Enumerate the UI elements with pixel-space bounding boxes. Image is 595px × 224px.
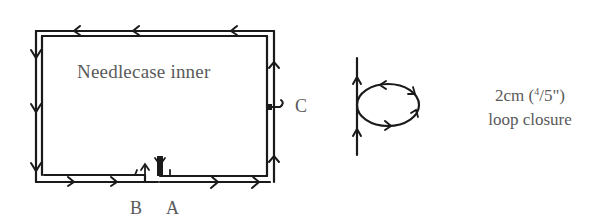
- caption-measurement-main: 2cm (: [495, 86, 534, 105]
- b-start-arrow-icon: [135, 164, 149, 175]
- inner-stitch-line: [42, 36, 267, 182]
- caption-measurement: 2cm (4/5"): [465, 80, 595, 108]
- point-b-label: B: [130, 199, 142, 217]
- a-knot-icon: [155, 156, 170, 176]
- caption-description: loop closure: [465, 108, 595, 132]
- diagram-title: Needlecase inner: [77, 62, 210, 81]
- caption-fraction-rest: /5"): [539, 86, 565, 105]
- point-c-label: C: [295, 97, 307, 115]
- point-a-label: A: [166, 199, 179, 217]
- loop-closure-caption: 2cm (4/5") loop closure: [465, 80, 595, 132]
- loop-closure-diagram: [353, 58, 419, 155]
- needlecase-diagram: Needlecase inner B A C 2cm (4/5") loop c…: [0, 0, 595, 224]
